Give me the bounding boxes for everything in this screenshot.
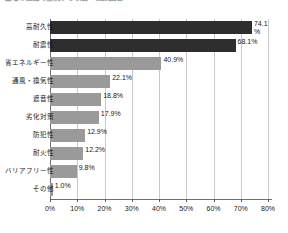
x-tick-label: 70% (234, 205, 248, 213)
bar-value-label: 74.1 % (254, 20, 268, 36)
x-tick-mark-20 (105, 199, 106, 202)
bar-row: 9.8% (50, 163, 268, 181)
x-tick-mark-10 (77, 199, 78, 202)
x-tick-label: 40% (152, 205, 166, 213)
gridline-80 (268, 19, 269, 199)
category-label: 高耐久性 (2, 23, 54, 31)
bar (50, 57, 161, 70)
bar-value-label: 40.9% (163, 56, 183, 64)
x-tick-mark-40 (159, 199, 160, 202)
bar-value-label: 18.8% (103, 92, 123, 100)
x-tick-label: 50% (179, 205, 193, 213)
x-tick-mark-30 (132, 199, 133, 202)
category-label: 防犯性 (2, 131, 54, 139)
bar-row: 1.0% (50, 181, 268, 199)
category-label: その他 (2, 185, 54, 193)
x-tick-mark-60 (214, 199, 215, 202)
plot-area: 74.1 %68.1%40.9%22.1%18.8%17.9%12.9%12.2… (50, 19, 268, 199)
x-axis-line (50, 199, 272, 200)
bar-row: 68.1% (50, 37, 268, 55)
x-tick-label: 10% (70, 205, 84, 213)
bar-row: 74.1 % (50, 19, 268, 37)
bar-value-label: 22.1% (112, 74, 132, 82)
x-tick-mark-50 (186, 199, 187, 202)
category-label: 劣化対策 (2, 113, 54, 121)
bar-value-label: 12.2% (85, 146, 105, 154)
bar-row: 12.2% (50, 145, 268, 163)
bar-value-label: 68.1% (238, 38, 258, 46)
bar-chart: 住宅の性能で重視する項目（複数回答） 74.1 %68.1%40.9%22.1%… (0, 0, 288, 233)
bar (50, 165, 77, 178)
x-tick-label: 30% (125, 205, 139, 213)
x-tick-label: 0% (45, 205, 55, 213)
category-label: 通風・換気性 (2, 77, 54, 85)
x-tick-mark-80 (268, 199, 269, 202)
bar (50, 39, 236, 52)
bar-value-label: 1.0% (55, 182, 71, 190)
bar-row: 18.8% (50, 91, 268, 109)
bar-row: 22.1% (50, 73, 268, 91)
x-tick-mark-70 (241, 199, 242, 202)
bar (50, 21, 252, 34)
chart-title: 住宅の性能で重視する項目（複数回答） (4, 0, 284, 3)
bar-row: 17.9% (50, 109, 268, 127)
bar (50, 93, 101, 106)
bar (50, 75, 110, 88)
bar-row: 40.9% (50, 55, 268, 73)
bar-value-label: 17.9% (101, 110, 121, 118)
category-label: 耐震性 (2, 41, 54, 49)
bar-value-label: 9.8% (79, 164, 95, 172)
bar-value-label: 12.9% (87, 128, 107, 136)
category-label: 遮音性 (2, 95, 54, 103)
x-tick-label: 20% (97, 205, 111, 213)
x-tick-label: 80% (261, 205, 275, 213)
category-label: 耐火性 (2, 149, 54, 157)
bar (50, 147, 83, 160)
bar (50, 129, 85, 142)
bar-row: 12.9% (50, 127, 268, 145)
x-tick-label: 60% (206, 205, 220, 213)
x-tick-mark-0 (50, 199, 51, 202)
category-label: バリアフリー性 (2, 167, 54, 175)
bar (50, 111, 99, 124)
category-label: 省エネルギー性 (2, 59, 54, 67)
